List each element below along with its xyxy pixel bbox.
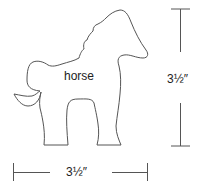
height-dimension-label: 3½″ <box>167 72 188 86</box>
shape-label: horse <box>64 69 94 83</box>
horse-template-diagram <box>0 0 204 191</box>
width-dimension-label: 3½″ <box>66 165 87 179</box>
